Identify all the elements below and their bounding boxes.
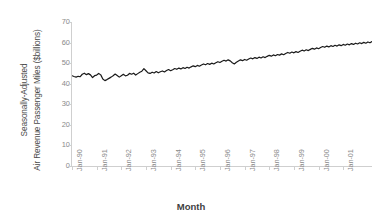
x-tick-mark: [319, 167, 320, 170]
x-tick-label-Jan-96: Jan-96: [223, 149, 232, 171]
x-tick-mark: [220, 167, 221, 170]
x-tick-label-Jan-00: Jan-00: [322, 149, 331, 171]
x-tick-label-Jan-98: Jan-98: [272, 149, 281, 171]
x-tick-mark: [72, 167, 73, 170]
x-tick-label-Jan-91: Jan-91: [100, 149, 109, 171]
x-tick-label-Jan-97: Jan-97: [248, 149, 257, 171]
x-tick-mark: [171, 167, 172, 170]
x-tick-label-Jan-01: Jan-01: [346, 149, 355, 171]
x-tick-mark: [294, 167, 295, 170]
y-tick-mark: [68, 104, 71, 105]
x-tick-label-Jan-95: Jan-95: [198, 149, 207, 171]
x-tick-mark: [245, 167, 246, 170]
y-tick-mark: [68, 63, 71, 64]
x-tick-label-Jan-92: Jan-92: [124, 149, 133, 171]
x-tick-mark: [121, 167, 122, 170]
x-tick-label-Jan-93: Jan-93: [149, 149, 158, 171]
y-tick-mark: [68, 22, 71, 23]
y-tick-mark: [68, 166, 71, 167]
x-axis-tick-labels: Jan-90Jan-91Jan-92Jan-93Jan-94Jan-95Jan-…: [0, 0, 382, 222]
x-tick-label-Jan-94: Jan-94: [174, 149, 183, 171]
x-tick-mark: [195, 167, 196, 170]
x-tick-mark: [269, 167, 270, 170]
x-axis-title: Month: [0, 201, 382, 212]
y-tick-mark: [68, 43, 71, 44]
x-tick-mark: [343, 167, 344, 170]
x-tick-mark: [97, 167, 98, 170]
x-tick-label-Jan-90: Jan-90: [75, 149, 84, 171]
x-tick-mark: [146, 167, 147, 170]
y-tick-mark: [68, 145, 71, 146]
y-tick-mark: [68, 84, 71, 85]
y-tick-mark: [68, 125, 71, 126]
x-tick-label-Jan-99: Jan-99: [297, 149, 306, 171]
chart-figure: Seasonally-Adjusted Air Revenue Passenge…: [0, 0, 382, 222]
